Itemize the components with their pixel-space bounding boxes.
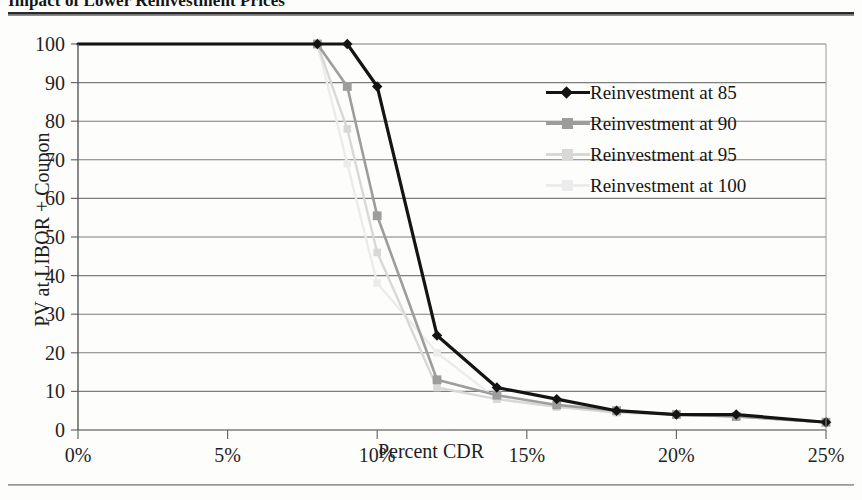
legend-item-label: Reinvestment at 100 bbox=[590, 176, 746, 195]
data-point-marker bbox=[373, 211, 382, 220]
y-tick-label: 70 bbox=[45, 149, 65, 171]
data-point-marker bbox=[433, 384, 441, 392]
legend-item-label: Reinvestment at 95 bbox=[590, 145, 737, 164]
data-point-marker bbox=[343, 160, 351, 168]
data-point-marker bbox=[433, 375, 442, 384]
y-tick-label: 40 bbox=[45, 265, 65, 287]
data-point-marker bbox=[433, 349, 441, 357]
figure-title-clip: Impact of Lower Reinvestment Prices bbox=[0, 0, 862, 11]
legend-line-square-icon bbox=[546, 176, 590, 194]
x-axis-tick-marks bbox=[78, 430, 826, 439]
y-axis-tick-labels: 0102030405060708090100 bbox=[35, 33, 65, 441]
page-title: Impact of Lower Reinvestment Prices bbox=[8, 0, 285, 11]
legend-item-3[interactable]: Reinvestment at 95 bbox=[546, 142, 737, 166]
data-point-marker bbox=[373, 280, 381, 288]
legend-item-1[interactable]: Reinvestment at 85 bbox=[546, 80, 737, 104]
horizontal-rule-top bbox=[8, 12, 854, 16]
y-tick-label: 80 bbox=[45, 110, 65, 132]
y-tick-label: 50 bbox=[45, 226, 65, 248]
legend-item-2[interactable]: Reinvestment at 90 bbox=[546, 111, 737, 135]
legend-item-4[interactable]: Reinvestment at 100 bbox=[546, 173, 746, 197]
y-tick-label: 20 bbox=[45, 342, 65, 364]
y-tick-label: 0 bbox=[55, 419, 65, 441]
y-tick-label: 100 bbox=[35, 33, 65, 55]
legend-item-label: Reinvestment at 85 bbox=[590, 83, 737, 102]
legend-line-square-icon bbox=[546, 145, 590, 163]
legend-line-diamond-icon bbox=[546, 83, 590, 101]
y-tick-label: 90 bbox=[45, 72, 65, 94]
data-point-marker bbox=[373, 249, 381, 257]
legend-line-square-icon bbox=[546, 114, 590, 132]
horizontal-rule-bottom bbox=[8, 484, 854, 486]
y-tick-label: 10 bbox=[45, 380, 65, 402]
x-axis-title: Percent CDR bbox=[8, 440, 854, 463]
chart-figure: 0102030405060708090100 0%5%10%15%20%25% … bbox=[8, 22, 854, 472]
data-point-marker bbox=[343, 125, 351, 133]
y-tick-label: 30 bbox=[45, 303, 65, 325]
data-point-marker bbox=[343, 82, 352, 91]
legend-item-label: Reinvestment at 90 bbox=[590, 114, 737, 133]
y-tick-label: 60 bbox=[45, 187, 65, 209]
